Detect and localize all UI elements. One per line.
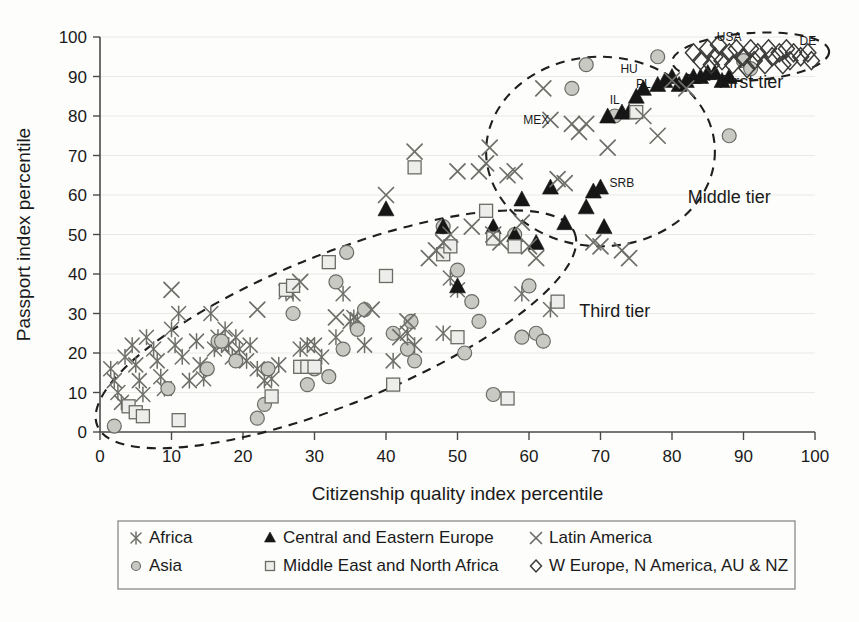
y-tick-label-50: 50 <box>68 226 87 245</box>
data-point-1-21 <box>408 354 422 368</box>
annotation-middle-tier: Middle tier <box>688 187 771 207</box>
data-point-1-8 <box>261 362 275 376</box>
legend-marker-square-icon <box>266 562 275 571</box>
y-tick-label-30: 30 <box>68 305 87 324</box>
point-label-srb: SRB <box>610 176 635 190</box>
data-point-1-24 <box>458 346 472 360</box>
y-axis-label: Passport index percentile <box>13 128 34 341</box>
x-tick-label-40: 40 <box>377 447 396 466</box>
annotation-third-tier: Third tier <box>579 301 650 321</box>
y-tick-label-0: 0 <box>78 423 87 442</box>
point-label-il: IL <box>610 93 620 107</box>
y-tick-label-70: 70 <box>68 147 87 166</box>
y-tick-label-60: 60 <box>68 186 87 205</box>
x-tick-label-100: 100 <box>801 447 829 466</box>
data-point-3-11 <box>380 269 393 282</box>
x-tick-label-10: 10 <box>162 447 181 466</box>
data-point-1-12 <box>322 370 336 384</box>
data-point-1-20 <box>404 314 418 328</box>
x-tick-label-60: 60 <box>520 447 539 466</box>
legend-label: Africa <box>149 528 193 547</box>
data-point-1-18 <box>386 326 400 340</box>
data-point-1-2 <box>200 362 214 376</box>
data-point-1-36 <box>651 50 665 64</box>
y-tick-label-80: 80 <box>68 107 87 126</box>
legend-label: Latin America <box>549 528 653 547</box>
data-point-3-15 <box>444 240 457 253</box>
data-point-1-33 <box>565 81 579 95</box>
data-point-1-25 <box>465 295 479 309</box>
data-point-1-26 <box>472 314 486 328</box>
data-point-3-17 <box>480 204 493 217</box>
data-point-1-34 <box>579 58 593 72</box>
data-point-1-23 <box>451 263 465 277</box>
chart-legend: AfricaAsiaCentral and Eastern EuropeMidd… <box>118 521 795 589</box>
legend-entry-latin-america[interactable]: Latin America <box>531 528 653 547</box>
data-point-1-0 <box>107 419 121 433</box>
legend-label: Middle East and North Africa <box>283 556 499 575</box>
y-tick-label-90: 90 <box>68 68 87 87</box>
legend-entry-central-and-eastern-europe[interactable]: Central and Eastern Europe <box>265 528 494 547</box>
data-point-3-20 <box>508 240 521 253</box>
data-point-1-29 <box>515 330 529 344</box>
data-point-1-14 <box>336 342 350 356</box>
data-point-1-13 <box>329 275 343 289</box>
data-point-1-10 <box>300 378 314 392</box>
data-point-1-15 <box>340 245 354 259</box>
data-point-3-10 <box>322 256 335 269</box>
data-point-3-22 <box>630 106 643 119</box>
x-tick-label-30: 30 <box>305 447 324 466</box>
data-point-1-5 <box>229 354 243 368</box>
legend-label: Asia <box>149 556 183 575</box>
annotation-first-tier: First tier <box>718 72 783 92</box>
chart-canvas: 0102030405060708090100010203040506070809… <box>0 0 859 622</box>
y-tick-label-40: 40 <box>68 265 87 284</box>
data-point-1-6 <box>250 411 264 425</box>
data-point-3-12 <box>387 378 400 391</box>
x-axis-label: Citizenship quality index percentile <box>312 483 604 504</box>
data-point-3-9 <box>308 360 321 373</box>
point-label-mex: MEX <box>523 113 549 127</box>
data-point-1-1 <box>161 382 175 396</box>
data-point-3-21 <box>551 295 564 308</box>
legend-marker-circle-icon <box>132 562 141 571</box>
x-tick-label-50: 50 <box>448 447 467 466</box>
scatter-chart-figure: 0102030405060708090100010203040506070809… <box>0 0 859 622</box>
x-tick-label-90: 90 <box>734 447 753 466</box>
data-point-3-4 <box>265 390 278 403</box>
data-point-1-37 <box>722 129 736 143</box>
x-tick-label-20: 20 <box>234 447 253 466</box>
point-label-hu: HU <box>620 62 637 76</box>
data-point-3-19 <box>501 392 514 405</box>
data-point-1-30 <box>522 279 536 293</box>
data-point-3-16 <box>451 331 464 344</box>
y-tick-label-10: 10 <box>68 384 87 403</box>
data-point-1-32 <box>536 334 550 348</box>
legend-entry-middle-east-and-north-africa[interactable]: Middle East and North Africa <box>266 556 499 575</box>
data-point-3-6 <box>287 279 300 292</box>
data-point-1-9 <box>286 307 300 321</box>
legend-label: Central and Eastern Europe <box>283 528 494 547</box>
data-point-3-3 <box>172 414 185 427</box>
y-tick-label-20: 20 <box>68 344 87 363</box>
data-point-1-27 <box>486 387 500 401</box>
point-label-pl: PL <box>636 77 651 91</box>
x-tick-label-70: 70 <box>591 447 610 466</box>
x-tick-label-80: 80 <box>663 447 682 466</box>
point-label-de: DE <box>800 34 817 48</box>
data-point-1-4 <box>215 334 229 348</box>
data-point-3-13 <box>408 161 421 174</box>
data-point-1-17 <box>358 303 372 317</box>
data-point-3-2 <box>136 410 149 423</box>
point-label-usa: USA <box>717 30 742 44</box>
y-tick-label-100: 100 <box>59 28 87 47</box>
x-tick-label-0: 0 <box>95 447 104 466</box>
legend-label: W Europe, N America, AU & NZ <box>549 556 788 575</box>
legend-entry-w-europe-n-america-au-nz[interactable]: W Europe, N America, AU & NZ <box>531 556 789 575</box>
data-point-1-16 <box>350 322 364 336</box>
